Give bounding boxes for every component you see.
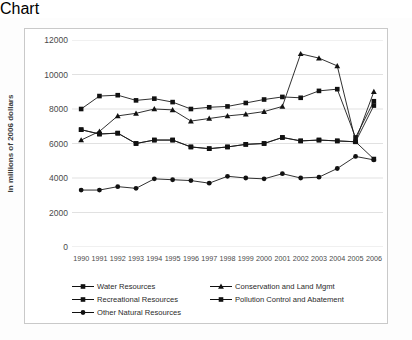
series-data-point [298, 139, 303, 144]
series-data-point [207, 181, 212, 186]
series-data-point [225, 104, 230, 109]
series-data-point [243, 176, 248, 181]
series-data-point [280, 135, 285, 140]
x-axis-tick-label: 2005 [346, 254, 364, 268]
series-data-point [134, 186, 139, 191]
series-data-point [298, 95, 303, 100]
series-data-point [189, 107, 194, 112]
series-data-point [97, 94, 102, 99]
legend-item-label: Other Natural Resources [97, 308, 181, 317]
chart-canvas [72, 40, 383, 247]
x-axis-tick-label: 2000 [255, 254, 273, 268]
series-data-point [353, 139, 358, 144]
series-data-point [298, 176, 303, 181]
series-line [81, 130, 374, 159]
y-axis-tick-label: 2000 [28, 208, 68, 218]
legend-item[interactable]: Pollution Control and Abatement [210, 293, 382, 306]
series-data-point [317, 175, 322, 180]
series-data-point [152, 176, 157, 181]
y-axis-tick-group: In millions of 2006 dollars 020004000600… [26, 40, 68, 247]
x-axis-tick-label: 1996 [182, 254, 200, 268]
series-data-point [371, 157, 376, 162]
y-axis-title: In millions of 2006 dollars [6, 40, 20, 247]
square-marker-icon [72, 295, 94, 304]
series-data-point [262, 141, 267, 146]
series-data-point [79, 188, 84, 193]
series-4 [79, 154, 377, 192]
square-marker-icon [210, 295, 232, 304]
legend-item[interactable]: Conservation and Land Mgmt [210, 280, 382, 293]
series-data-point [189, 145, 194, 150]
series-data-point [334, 63, 340, 68]
y-axis-tick-label: 10000 [28, 70, 68, 80]
series-data-point [207, 105, 212, 110]
y-axis-tick-label: 12000 [28, 35, 68, 45]
series-data-point [335, 87, 340, 92]
series-data-point [280, 171, 285, 176]
x-axis-tick-label: 2001 [273, 254, 291, 268]
x-axis-tick-label: 1991 [90, 254, 108, 268]
series-data-point [152, 138, 157, 143]
plot-area [72, 40, 383, 247]
series-data-point [189, 178, 194, 183]
circle-marker-icon [72, 308, 94, 317]
series-data-point [225, 174, 230, 179]
y-axis-tick-label: 8000 [28, 104, 68, 114]
x-axis-tick-label: 2002 [292, 254, 310, 268]
x-axis-tick-label: 1992 [109, 254, 127, 268]
x-axis-tick-label: 1993 [127, 254, 145, 268]
series-data-point [97, 188, 102, 193]
legend-spacer [210, 306, 382, 319]
x-axis-tick-label: 1995 [163, 254, 181, 268]
x-axis-tick-label: 1999 [237, 254, 255, 268]
series-data-point [317, 138, 322, 143]
series-data-point [115, 184, 120, 189]
x-axis-tick-label: 1990 [72, 254, 90, 268]
legend-item-label: Conservation and Land Mgmt [235, 282, 335, 291]
series-data-point [79, 107, 84, 112]
legend-item[interactable]: Recreational Resources [72, 293, 210, 306]
series-data-point [262, 97, 267, 102]
chart-screenshot: In millions of 2006 dollars 020004000600… [0, 18, 412, 340]
x-axis-tick-label: 2003 [310, 254, 328, 268]
series-data-point [134, 141, 139, 146]
x-axis-tick-label: 2006 [365, 254, 383, 268]
x-axis-tick-label: 1994 [145, 254, 163, 268]
x-axis-tick-label: 1998 [218, 254, 236, 268]
series-data-point [262, 176, 267, 181]
series-data-point [372, 103, 377, 108]
series-data-point [115, 131, 120, 136]
series-line [81, 106, 374, 149]
x-axis-tick-label: 1997 [200, 254, 218, 268]
series-data-point [225, 145, 230, 150]
series-2 [79, 127, 376, 161]
series-data-point [170, 100, 175, 105]
x-axis-tick-label: 2004 [328, 254, 346, 268]
y-axis-tick-label: 4000 [28, 173, 68, 183]
triangle-marker-icon [210, 282, 232, 291]
legend-item[interactable]: Water Resources [72, 280, 210, 293]
series-data-point [152, 96, 157, 101]
legend-item-label: Pollution Control and Abatement [235, 295, 344, 304]
y-axis-tick-label: 0 [28, 242, 68, 252]
series-data-point [78, 137, 84, 142]
series-data-point [207, 146, 212, 151]
series-data-point [243, 142, 248, 147]
series-data-point [97, 132, 102, 137]
series-data-point [353, 154, 358, 159]
legend-item-label: Water Resources [97, 282, 155, 291]
legend-item-label: Recreational Resources [97, 295, 178, 304]
series-data-point [243, 101, 248, 106]
series-data-point [372, 99, 377, 104]
series-data-point [279, 104, 285, 109]
series-data-point [335, 166, 340, 171]
series-data-point [170, 177, 175, 182]
series-data-point [79, 127, 84, 132]
series-data-point [280, 95, 285, 100]
y-axis-tick-label: 6000 [28, 139, 68, 149]
square-marker-icon [72, 282, 94, 291]
series-data-point [134, 98, 139, 103]
series-data-point [371, 89, 377, 94]
legend-item[interactable]: Other Natural Resources [72, 306, 210, 319]
series-data-point [115, 93, 120, 98]
